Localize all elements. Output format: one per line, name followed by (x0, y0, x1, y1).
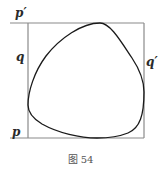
curve-of-constant-width-diagram (0, 0, 161, 169)
oval-curve (28, 23, 144, 138)
figure-caption: 图 54 (0, 151, 161, 166)
label-q: q (16, 51, 24, 63)
label-p-prime: p′ (15, 7, 27, 19)
label-q-prime: q′ (146, 56, 158, 68)
label-p: p (12, 126, 20, 138)
